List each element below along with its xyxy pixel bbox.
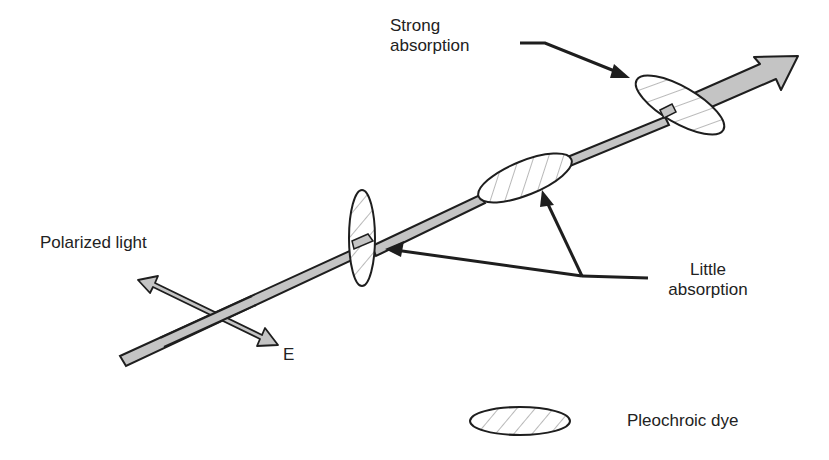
strong-label-line2: absorption — [390, 36, 469, 56]
strong-absorption-label: Strong absorption — [390, 16, 469, 56]
e-field-double-arrow — [138, 276, 278, 346]
e-field-label: E — [283, 345, 294, 365]
little-label-line1: Little — [648, 260, 768, 280]
polarized-light-label: Polarized light — [40, 233, 147, 253]
little-absorption-pointers — [385, 190, 648, 278]
strong-label-line1: Strong — [390, 16, 469, 36]
legend-dye-icon — [470, 407, 570, 435]
dye-molecule-aligned — [472, 144, 577, 213]
diagram-svg — [0, 0, 829, 460]
strong-absorption-pointer — [520, 43, 630, 78]
little-label-line2: absorption — [648, 280, 768, 300]
little-absorption-label: Little absorption — [648, 260, 768, 300]
legend-label: Pleochroic dye — [627, 411, 739, 431]
diagram-canvas: Strong absorption Little absorption Pola… — [0, 0, 829, 460]
